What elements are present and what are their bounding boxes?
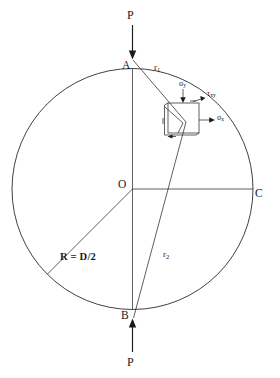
tau-xy-arrow-head (200, 96, 205, 101)
stress-element-square (168, 103, 199, 133)
point-label-o: O (118, 179, 126, 191)
stress-label-sigma-y: σy (179, 80, 186, 88)
diagram-svg (0, 0, 280, 378)
stress-element-corner-link-tl (165, 103, 169, 105)
distance-label-r1-sub: 1 (157, 66, 160, 73)
point-label-c: C (255, 188, 263, 200)
stress-label-sigma-x: σx (217, 114, 224, 122)
distance-line-r2 (134, 122, 187, 318)
sigma-x-arrow-head (209, 117, 215, 122)
load-label-bottom: P (127, 356, 134, 368)
point-label-a: A (122, 60, 130, 72)
diagram-canvas: P P A B O C R = D/2 r1 r2 σy τxy σx (0, 0, 280, 378)
stress-label-sigma-y-sub: y (183, 82, 186, 88)
load-label-top: P (127, 9, 134, 21)
stress-label-sigma-x-sub: x (221, 116, 224, 122)
distance-label-r2-sub: 2 (166, 253, 169, 260)
stress-label-tau-xy-sub: xy (210, 92, 216, 98)
load-arrow-bottom-head (129, 319, 136, 328)
radius-label: R = D/2 (60, 252, 96, 263)
distance-label-r1: r1 (154, 63, 160, 72)
point-label-b: B (121, 310, 129, 322)
stress-label-tau-xy: τxy (207, 90, 216, 98)
sigma-y-arrow-head (180, 97, 185, 103)
distance-label-r2: r2 (163, 250, 169, 259)
